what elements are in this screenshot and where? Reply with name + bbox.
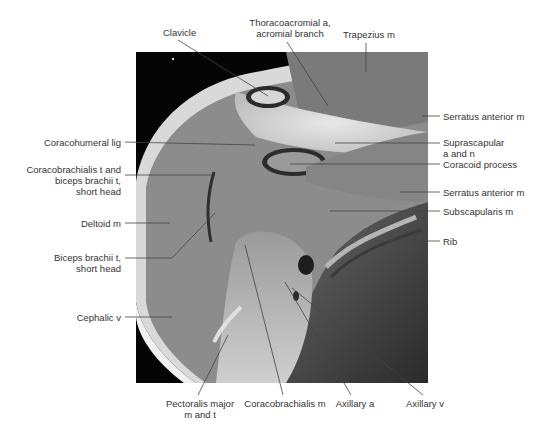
label-text: short head xyxy=(0,263,121,274)
label-text: Serratus anterior m xyxy=(443,187,524,198)
label-text: Suprascapular xyxy=(443,137,504,148)
label-biceps-brachii-short-head: Biceps brachii t, short head xyxy=(0,252,121,274)
label-text: short head xyxy=(0,186,121,197)
label-coracoid-process: Coracoid process xyxy=(443,159,517,170)
label-text: acromial branch xyxy=(240,28,340,39)
label-text: Serratus anterior m xyxy=(443,111,524,122)
label-text: Biceps brachii t, xyxy=(0,252,121,263)
label-cephalic-v: Cephalic v xyxy=(0,312,121,323)
label-subscapularis-m: Subscapularis m xyxy=(443,206,513,217)
label-axillary-a: Axillary a xyxy=(330,398,380,409)
label-serratus-anterior-upper: Serratus anterior m xyxy=(443,111,524,122)
label-text: Axillary a xyxy=(336,398,375,409)
label-pectoralis-major-m-and-t: Pectoralis major m and t xyxy=(160,398,240,420)
label-suprascapular-a-and-n: Suprascapular a and n xyxy=(443,137,504,159)
label-text: a and n xyxy=(443,148,504,159)
label-coracohumeral-lig: Coracohumeral lig xyxy=(0,137,121,148)
label-thoracoacromial-a: Thoracoacromial a, acromial branch xyxy=(240,17,340,39)
label-text: Coracohumeral lig xyxy=(44,137,121,148)
label-coracobrachialis-m: Coracobrachialis m xyxy=(240,398,330,409)
label-text: Trapezius m xyxy=(343,29,395,40)
label-clavicle: Clavicle xyxy=(163,27,196,38)
label-text: Deltoid m xyxy=(81,218,121,229)
label-text: Clavicle xyxy=(163,27,196,38)
label-text: Pectoralis major xyxy=(160,398,240,409)
label-axillary-v: Axillary v xyxy=(400,398,450,409)
label-text: Coracoid process xyxy=(443,159,517,170)
label-text: Thoracoacromial a, xyxy=(240,17,340,28)
label-deltoid-m: Deltoid m xyxy=(0,218,121,229)
label-text: Cephalic v xyxy=(77,312,121,323)
label-text: biceps brachii t, xyxy=(0,175,121,186)
label-text: Subscapularis m xyxy=(443,206,513,217)
anatomy-figure: Clavicle Thoracoacromial a, acromial bra… xyxy=(0,0,549,433)
label-text: m and t xyxy=(160,409,240,420)
label-rib: Rib xyxy=(443,236,457,247)
label-serratus-anterior-lower: Serratus anterior m xyxy=(443,187,524,198)
label-trapezius-m: Trapezius m xyxy=(343,29,395,40)
label-coracobrachialis-t-and-biceps-brachii-t: Coracobrachialis t and biceps brachii t,… xyxy=(0,164,121,197)
label-text: Axillary v xyxy=(406,398,444,409)
label-text: Coracobrachialis m xyxy=(244,398,325,409)
label-text: Coracobrachialis t and xyxy=(0,164,121,175)
label-text: Rib xyxy=(443,236,457,247)
